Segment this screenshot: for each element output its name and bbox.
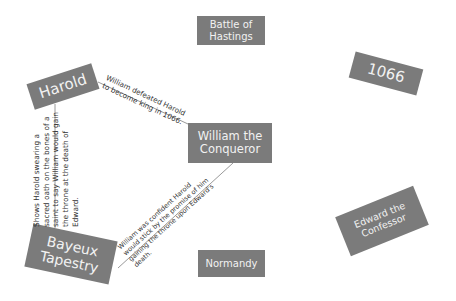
edge-label-line: the throne at the death of [61, 112, 71, 227]
edge-label-line: Shows Harold swearing a [32, 112, 42, 227]
node-label-line: Conqueror [198, 143, 263, 156]
node-label-line: Battle of [209, 19, 252, 31]
node-normandy[interactable]: Normandy [198, 250, 265, 277]
node-label: 1066 [365, 60, 406, 87]
node-william-the-conqueror[interactable]: William the Conqueror [188, 123, 272, 163]
edge-label-line: Edward. [71, 112, 81, 227]
edge-label-harold-bayeux: Shows Harold swearing a sacred oath on t… [32, 112, 80, 227]
node-label: Normandy [205, 258, 257, 270]
node-battle-of-hastings[interactable]: Battle of Hastings [197, 16, 265, 45]
edge-label-line: saint to say William would gain [51, 112, 61, 227]
edge-label-line: sacred oath on the bones of a [42, 112, 52, 227]
node-label-line: Hastings [209, 31, 252, 43]
